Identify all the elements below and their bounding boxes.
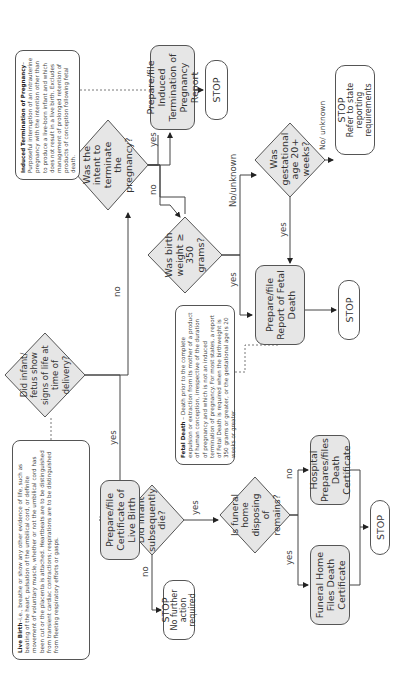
note-live-birth: Live Birth–i.e., breathe or show any oth…: [12, 440, 90, 660]
label-signs-no: no: [112, 286, 122, 297]
note-induced-text: –Purposeful interruption of an intrauter…: [20, 58, 76, 173]
action-fetal-death-report: Prepare/file Report of Fetal Death: [255, 265, 305, 345]
label-funeral-no: no: [284, 468, 294, 479]
label-weight-yes: yes: [228, 272, 238, 287]
decision-die-text: Did infant subsequently die?: [135, 493, 169, 547]
action-live-birth-cert: Prepare/file Certificate of Live Birth: [100, 480, 140, 560]
stop-after-fetal: STOP: [338, 280, 360, 340]
stop-no-further: STOP No further action required: [163, 580, 195, 640]
label-intent-no: no: [148, 184, 158, 195]
decision-intent-text: Was the intent to terminate the pregnanc…: [88, 133, 128, 197]
stop-refer-text: Refer to state reporting requirements: [346, 70, 373, 150]
label-die-no: no: [140, 566, 150, 577]
note-fetal-term: Fetal Death: [180, 421, 186, 458]
stop-refer-title: STOP: [337, 97, 346, 122]
label-gest-no: No/ unknown: [318, 101, 327, 150]
decision-signs-text: Did infant/ fetus show signs of life at …: [22, 345, 68, 405]
decision-gestational-text: Was gestational age 20+ weeks?: [272, 131, 308, 187]
label-signs-yes: yes: [108, 430, 118, 445]
note-induced-termination: Induced Termination of Pregnancy–Purpose…: [15, 50, 80, 180]
decision-funeral-text: Is funeral home disposing of remains?: [235, 489, 277, 541]
note-live-birth-text: –i.e., breathe or show any other evidenc…: [17, 450, 59, 653]
label-funeral-yes: yes: [284, 550, 294, 565]
note-live-birth-term: Live Birth: [17, 623, 23, 653]
stop-no-further-text: No further action required: [170, 585, 197, 635]
label-weight-no: No/unknown: [228, 154, 238, 207]
note-fetal-text: – Death prior to the complete expulsion …: [180, 313, 236, 458]
note-fetal-death: Fetal Death – Death prior to the complet…: [175, 305, 235, 465]
action-induced-report: Prepare/file Induced Termination of Preg…: [150, 45, 195, 130]
stop-refer-state: STOP Refer to state reporting requiremen…: [335, 65, 375, 155]
flowchart-canvas: Live Birth–i.e., breathe or show any oth…: [0, 0, 399, 675]
action-funeral-home-files: Funeral Home Files Death Certificate: [310, 545, 350, 625]
stop-after-induced: STOP: [205, 60, 228, 120]
action-hospital-prepares: Hospital Prepares/files Death Certificat…: [310, 435, 350, 505]
label-intent-yes: yes: [148, 132, 158, 147]
label-die-yes: yes: [190, 500, 200, 515]
note-induced-term: Induced Termination of Pregnancy: [20, 65, 26, 173]
decision-weight-text: Was birth weight ≥ 350 grams?: [165, 229, 205, 281]
stop-after-death-cert: STOP: [370, 500, 390, 555]
label-gest-yes: yes: [278, 222, 288, 237]
stop-no-further-title: STOP: [161, 597, 170, 622]
